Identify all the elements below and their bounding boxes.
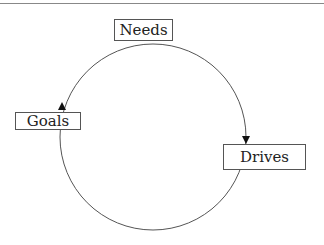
arrowhead-to-drives <box>242 136 250 144</box>
node-goals: Goals <box>15 112 81 130</box>
node-needs: Needs <box>114 19 173 41</box>
node-drives: Drives <box>223 144 306 170</box>
